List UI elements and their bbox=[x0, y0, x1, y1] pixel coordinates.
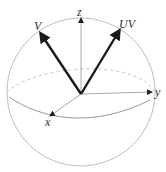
x-axis bbox=[50, 94, 81, 116]
vector-uv bbox=[81, 31, 119, 94]
y-axis bbox=[81, 92, 152, 94]
bloch-sphere-svg: z y x V UV bbox=[0, 0, 166, 172]
x-axis-label: x bbox=[44, 115, 51, 129]
vector-v bbox=[41, 34, 81, 94]
vector-uv-label: UV bbox=[119, 17, 137, 31]
equator-front bbox=[9, 97, 150, 118]
bloch-sphere-diagram: z y x V UV bbox=[0, 0, 166, 172]
z-axis-label: z bbox=[76, 5, 82, 19]
vector-v-label: V bbox=[34, 19, 43, 33]
y-axis-label: y bbox=[154, 85, 161, 99]
